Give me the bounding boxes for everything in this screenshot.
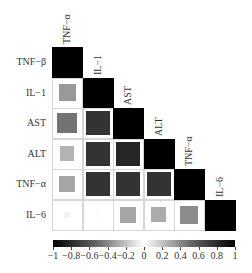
diagonal-cell	[174, 169, 205, 200]
colorbar-tick-label: 0.6	[192, 250, 205, 261]
correlation-square	[120, 207, 136, 223]
correlation-square	[64, 212, 70, 218]
column-label: IL−1	[92, 54, 104, 74]
colorbar-tick-label: 0.4	[174, 250, 187, 261]
correlation-square	[180, 206, 198, 224]
correlation-square	[57, 113, 77, 133]
correlation-cell	[174, 200, 205, 231]
correlation-cell	[144, 200, 175, 231]
correlation-square	[59, 84, 76, 101]
correlation-square	[59, 176, 75, 192]
column-label: TNF−α	[183, 136, 195, 166]
correlation-square	[96, 213, 100, 217]
row-label: IL−1	[2, 87, 46, 99]
correlation-square	[151, 207, 166, 222]
correlation-cell	[83, 200, 114, 231]
correlation-cell	[144, 169, 175, 200]
diagonal-cell	[144, 139, 175, 170]
correlation-heatmap: TNF−βIL−1ASTALTTNF−αIL−6 TNF−αIL−1ASTALT…	[0, 0, 252, 273]
colorbar-gradient	[53, 240, 235, 247]
colorbar-tick-label: 0	[142, 250, 147, 261]
colorbar-tick-label: −0.8	[62, 250, 80, 261]
correlation-cell	[113, 169, 144, 200]
column-label: AST	[122, 86, 134, 105]
column-label: ALT	[153, 117, 165, 136]
colorbar-tick-label: −1	[48, 250, 59, 261]
colorbar-tick-label: 1	[233, 250, 238, 261]
correlation-cell	[113, 200, 144, 231]
correlation-cell	[83, 169, 114, 200]
correlation-square	[86, 111, 110, 135]
correlation-cell	[52, 108, 83, 139]
diagonal-cell	[52, 47, 83, 78]
row-label: AST	[2, 117, 46, 129]
colorbar-tick-label: 0.2	[156, 250, 169, 261]
row-label: ALT	[2, 148, 46, 160]
correlation-square	[116, 142, 140, 166]
correlation-cell	[52, 78, 83, 109]
colorbar-tick-label: −0.2	[117, 250, 135, 261]
correlation-square	[116, 172, 140, 196]
column-label: TNF−α	[61, 14, 73, 44]
correlation-square	[86, 172, 110, 196]
correlation-cell	[52, 169, 83, 200]
correlation-square	[86, 142, 110, 166]
diagonal-cell	[113, 108, 144, 139]
correlation-cell	[52, 139, 83, 170]
diagonal-cell	[83, 78, 114, 109]
colorbar-tick-label: −0.4	[99, 250, 117, 261]
correlation-cell	[83, 139, 114, 170]
row-label: IL−6	[2, 209, 46, 221]
colorbar-tick-label: −0.6	[80, 250, 98, 261]
correlation-square	[60, 146, 75, 161]
correlation-cell	[83, 108, 114, 139]
colorbar-tick-label: 0.8	[211, 250, 224, 261]
diagonal-cell	[205, 200, 236, 231]
correlation-cell	[52, 200, 83, 231]
row-label: TNF−β	[2, 56, 46, 68]
row-label: TNF−α	[2, 178, 46, 190]
correlation-square	[147, 172, 171, 196]
column-label: IL−6	[214, 176, 226, 196]
correlation-cell	[113, 139, 144, 170]
